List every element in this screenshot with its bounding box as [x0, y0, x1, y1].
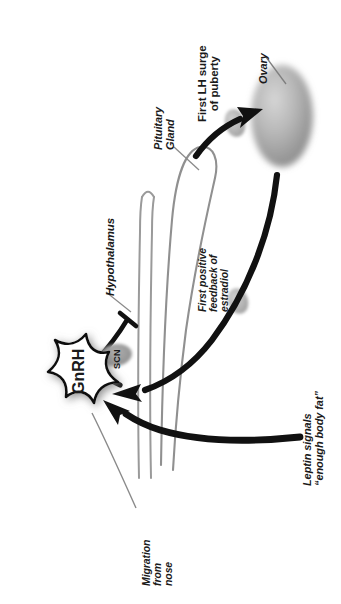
label-pituitary-gland: Pituitary Gland	[153, 107, 176, 150]
label-gnrh: GnRH	[71, 349, 88, 394]
label-ovary: Ovary	[258, 53, 270, 84]
label-leptin-signals: Leptin signals “enough body fat”	[302, 391, 325, 486]
label-hypothalamus: Hypothalamus	[104, 218, 116, 296]
diagram-graphics	[0, 0, 341, 604]
label-first-positive-feedback: First positive feedback of estradiol	[197, 248, 230, 312]
label-migration-from-nose: Migration from nose	[141, 540, 174, 586]
diagram-canvas: Hypothalamus Pituitary Gland First LH su…	[0, 0, 341, 604]
hypothalamus-midline	[138, 192, 154, 478]
arrow-leptin	[103, 400, 300, 440]
leader-migration	[92, 413, 136, 508]
label-scn: SCN	[113, 349, 123, 369]
label-first-lh-surge: First LH surge of puberty	[196, 45, 220, 122]
arrow-estradiol-feedback	[112, 175, 277, 402]
